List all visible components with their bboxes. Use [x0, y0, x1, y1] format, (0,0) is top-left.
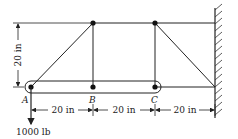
label-c: C [151, 95, 158, 105]
diagonal-c-wall [155, 23, 215, 87]
joint-b [90, 84, 95, 89]
label-a: A [21, 95, 29, 105]
fixed-wall [215, 4, 222, 118]
diagonal-a [31, 23, 93, 87]
joint-c [152, 84, 157, 89]
truss-diagram: A B C 20 in 20 in 20 in 20 in 1000 lb [0, 0, 238, 139]
load-label: 1000 lb [16, 127, 51, 137]
joint-top-c [152, 20, 157, 25]
truss-members [31, 23, 215, 87]
vertical-dimension [13, 23, 93, 87]
label-b: B [88, 95, 96, 105]
dimension-c-wall-label: 20 in [174, 105, 197, 115]
dimension-bc-label: 20 in [113, 105, 136, 115]
vertical-dimension-label: 20 in [13, 43, 23, 66]
dimension-ab-label: 20 in [52, 105, 75, 115]
